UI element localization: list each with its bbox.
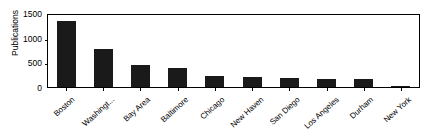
x-label-new-york: New York: [382, 95, 413, 124]
x-axis-category-labels: Boston Washingt... Bay Area Baltimore Ch…: [47, 92, 420, 140]
x-label-slot-durham: Durham: [345, 92, 382, 140]
bar-new-york: [391, 86, 410, 87]
x-tick-mark: [215, 88, 216, 91]
x-label-slot-new-haven: New Haven: [233, 92, 270, 140]
bar-slot-chicago: [196, 15, 233, 87]
x-tick-mark: [289, 88, 290, 91]
x-label-slot-new-york: New York: [383, 92, 420, 140]
x-label-washington: Washingt...: [81, 95, 117, 128]
x-label-slot-washington: Washingt...: [84, 92, 121, 140]
x-label-san-diego: San Diego: [268, 95, 302, 127]
x-label-boston: Boston: [52, 95, 77, 118]
x-label-baltimore: Baltimore: [158, 95, 189, 124]
bar-slot-baltimore: [159, 15, 196, 87]
x-tick-mark: [66, 88, 67, 91]
bar-slot-boston: [48, 15, 85, 87]
y-tick-label-0: 0: [16, 84, 42, 93]
bar-bay-area: [131, 65, 150, 87]
x-tick-mark: [178, 88, 179, 91]
bar-washington: [94, 49, 113, 87]
bar-chart: Publications 1500 1000 500 0: [0, 0, 427, 140]
y-axis-tick-labels: 1500 1000 500 0: [14, 0, 42, 140]
bar-los-angeles: [317, 79, 336, 87]
bar-boston: [57, 21, 76, 87]
bar-slot-bay-area: [122, 15, 159, 87]
x-label-slot-san-diego: San Diego: [271, 92, 308, 140]
bar-baltimore: [168, 68, 187, 87]
plot-area: [47, 14, 420, 88]
x-label-bay-area: Bay Area: [122, 95, 152, 123]
bar-durham: [354, 79, 373, 87]
y-tick-label-1000: 1000: [16, 35, 42, 44]
bar-slot-san-diego: [271, 15, 308, 87]
x-label-slot-bay-area: Bay Area: [122, 92, 159, 140]
bar-slot-new-york: [382, 15, 419, 87]
bar-new-haven: [243, 77, 262, 87]
x-label-chicago: Chicago: [198, 95, 226, 121]
x-label-durham: Durham: [348, 95, 375, 121]
x-tick-mark: [401, 88, 402, 91]
x-tick-mark: [364, 88, 365, 91]
bar-slot-new-haven: [233, 15, 270, 87]
y-tick-label-500: 500: [16, 59, 42, 68]
x-label-los-angeles: Los Angeles: [302, 95, 340, 131]
y-tick-label-1500: 1500: [16, 10, 42, 19]
x-label-slot-chicago: Chicago: [196, 92, 233, 140]
x-tick-mark: [327, 88, 328, 91]
x-label-new-haven: New Haven: [229, 95, 266, 129]
bar-san-diego: [280, 78, 299, 87]
x-tick-mark: [252, 88, 253, 91]
x-label-slot-baltimore: Baltimore: [159, 92, 196, 140]
bar-slot-durham: [345, 15, 382, 87]
x-tick-mark: [140, 88, 141, 91]
bar-chicago: [205, 76, 224, 87]
x-label-slot-los-angeles: Los Angeles: [308, 92, 345, 140]
x-tick-mark: [103, 88, 104, 91]
bar-slot-washington: [85, 15, 122, 87]
x-label-slot-boston: Boston: [47, 92, 84, 140]
bar-series: [48, 15, 419, 87]
bar-slot-los-angeles: [308, 15, 345, 87]
